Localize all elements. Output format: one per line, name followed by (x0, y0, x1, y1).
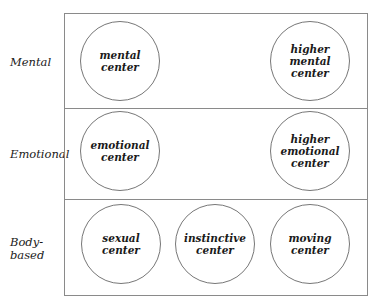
higher-emotional-center-label: higher emotional center (280, 133, 339, 169)
mental-center-label: mental center (99, 49, 140, 73)
row-label-body-based: Body- based (10, 236, 44, 262)
instinctive-center-circle: instinctive center (175, 204, 255, 284)
moving-center-circle: moving center (270, 204, 350, 284)
row-label-mental: Mental (10, 56, 51, 69)
moving-center-label: moving center (288, 232, 331, 256)
instinctive-center-label: instinctive center (184, 232, 246, 256)
row-divider-2 (64, 199, 368, 200)
emotional-center-label: emotional center (90, 139, 149, 163)
row-label-emotional: Emotional (10, 148, 69, 161)
higher-mental-center-label: higher mental center (289, 43, 330, 79)
higher-mental-center-circle: higher mental center (270, 21, 350, 101)
sexual-center-circle: sexual center (81, 204, 161, 284)
emotional-center-circle: emotional center (80, 111, 160, 191)
row-divider-1 (64, 108, 368, 109)
higher-emotional-center-circle: higher emotional center (270, 111, 350, 191)
mental-center-circle: mental center (80, 21, 160, 101)
sexual-center-label: sexual center (102, 232, 140, 256)
